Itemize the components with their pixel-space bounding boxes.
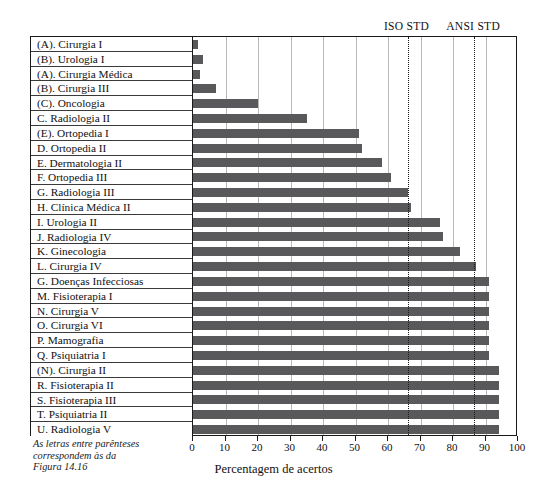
bar-row (193, 141, 516, 156)
axis-tick-label: 70 (414, 441, 425, 453)
category-label: M. Fisioterapia I (31, 289, 192, 304)
bar (193, 40, 198, 49)
figure-footnote: As letras entre parêntesescorrespondem à… (33, 438, 183, 473)
bar-row (193, 244, 516, 259)
bar-row (193, 393, 516, 408)
axis-tick-label: 30 (284, 441, 295, 453)
category-label: G. Doenças Infecciosas (31, 274, 192, 289)
bar (193, 292, 489, 301)
category-label: O. Cirurgia VI (31, 318, 192, 333)
reference-line-label: ANSI STD (446, 20, 500, 32)
category-label: (B). Cirurgia III (31, 81, 192, 96)
category-label: I. Urologia II (31, 215, 192, 230)
category-label: D. Ortopedia II (31, 141, 192, 156)
bar (193, 55, 203, 64)
bar-row (193, 81, 516, 96)
bar (193, 144, 362, 153)
bar (193, 158, 382, 167)
category-label: J. Radiologia IV (31, 230, 192, 245)
axis-tick-label: 60 (382, 441, 393, 453)
bar-row (193, 274, 516, 289)
bar-row (193, 304, 516, 319)
bar-row (193, 96, 516, 111)
bar (193, 307, 489, 316)
axis-tick-label: 40 (317, 441, 328, 453)
bar-row (193, 378, 516, 393)
category-label: N. Cirurgia V (31, 304, 192, 319)
footnote-line: correspondem às da (33, 450, 183, 462)
bar-row (193, 230, 516, 245)
bar-row (193, 200, 516, 215)
axis-tick-label: 50 (349, 441, 360, 453)
bar (193, 321, 489, 330)
bar (193, 381, 499, 390)
bar (193, 232, 443, 241)
bar-row (193, 363, 516, 378)
bar-row (193, 259, 516, 274)
category-label: F. Ortopedia III (31, 170, 192, 185)
bar (193, 203, 411, 212)
axis-tick-label: 0 (189, 441, 195, 453)
bar (193, 425, 499, 434)
bar-row (193, 333, 516, 348)
reference-line (408, 37, 409, 435)
bar (193, 277, 489, 286)
category-label: (A). Cirurgia Médica (31, 67, 192, 82)
bar-row (193, 156, 516, 171)
bar (193, 366, 499, 375)
bar (193, 410, 499, 419)
category-label: (B). Urologia I (31, 52, 192, 67)
category-label: T. Psiquiatria II (31, 407, 192, 422)
axis-tick-label: 100 (509, 441, 526, 453)
bar-row (193, 348, 516, 363)
bar-row (193, 422, 516, 435)
bar-row (193, 52, 516, 67)
category-label: S. Fisioterapia III (31, 393, 192, 408)
axis-tick-label: 90 (479, 441, 490, 453)
plot-area (193, 37, 516, 435)
bar-row (193, 185, 516, 200)
category-label: R. Fisioterapia II (31, 378, 192, 393)
category-label: (A). Cirurgia I (31, 37, 192, 52)
category-label: Q. Psiquiatria I (31, 348, 192, 363)
bar (193, 84, 216, 93)
footnote-line: As letras entre parênteses (33, 438, 183, 450)
reference-line-label: ISO STD (384, 20, 429, 32)
footnote-line: Figura 14.16 (33, 461, 183, 473)
bar (193, 336, 489, 345)
category-label: C. Radiologia II (31, 111, 192, 126)
bar (193, 247, 460, 256)
category-label: (N). Cirurgia II (31, 363, 192, 378)
category-label: H. Clínica Médica II (31, 200, 192, 215)
bar-row (193, 318, 516, 333)
category-label: U. Radiologia V (31, 422, 192, 437)
plot-frame: (A). Cirurgia I(B). Urologia I(A). Cirur… (30, 36, 517, 436)
category-label: K. Ginecologia (31, 244, 192, 259)
category-label: E. Dermatologia II (31, 156, 192, 171)
bar-chart-figure: ISO STDANSI STD (A). Cirurgia I(B). Urol… (0, 0, 560, 499)
bar (193, 395, 499, 404)
bar (193, 173, 391, 182)
axis-tick-label: 20 (252, 441, 263, 453)
bar (193, 70, 200, 79)
bar (193, 99, 258, 108)
bar (193, 129, 359, 138)
bar (193, 351, 489, 360)
bar (193, 114, 307, 123)
bar (193, 262, 476, 271)
axis-tick-label: 10 (219, 441, 230, 453)
bar-row (193, 170, 516, 185)
bar-row (193, 37, 516, 52)
category-label-column: (A). Cirurgia I(B). Urologia I(A). Cirur… (31, 37, 193, 435)
bar-row (193, 126, 516, 141)
bar-row (193, 67, 516, 82)
axis-tick-label: 80 (447, 441, 458, 453)
bar-row (193, 289, 516, 304)
bar-row (193, 407, 516, 422)
bar (193, 218, 440, 227)
bar-row (193, 215, 516, 230)
category-label: G. Radiologia III (31, 185, 192, 200)
category-label: P. Mamografia (31, 333, 192, 348)
category-label: L. Cirurgia IV (31, 259, 192, 274)
category-label: (E). Ortopedia I (31, 126, 192, 141)
